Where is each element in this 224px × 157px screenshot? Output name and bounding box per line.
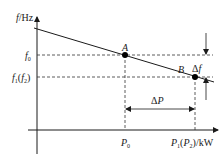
point-b-label: B — [178, 64, 184, 75]
delta-p-label: ΔP — [151, 95, 164, 106]
f0-label: f0 — [25, 50, 31, 62]
droop-diagram: f/Hz f0 f1(f2) A B Δf ΔP P0 P1(P2)/kW — [0, 0, 224, 157]
point-a-label: A — [121, 42, 129, 53]
f1-f2-label: f1(f2) — [12, 72, 30, 84]
point-b — [192, 74, 198, 80]
p0-label: P0 — [120, 137, 130, 149]
y-axis-label: f/Hz — [16, 12, 34, 23]
x-axis-label: P1(P2)/kW — [170, 137, 214, 149]
delta-f-label: Δf — [192, 63, 202, 74]
